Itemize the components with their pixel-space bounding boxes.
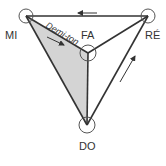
edge-fa-re: [88, 16, 148, 53]
note-tetrahedron-diagram: Demi-ton MI RÉ FA DO: [0, 0, 166, 166]
arrow-do-to-re-icon: [120, 56, 135, 82]
node-label-fa: FA: [81, 29, 95, 41]
node-label-re: RÉ: [145, 29, 160, 41]
diagram-svg: Demi-ton MI RÉ FA DO: [0, 0, 166, 166]
node-label-do: DO: [79, 140, 96, 152]
node-label-mi: MI: [5, 29, 17, 41]
edge-do-re: [87, 16, 148, 125]
edge-fa-do: [87, 53, 88, 125]
